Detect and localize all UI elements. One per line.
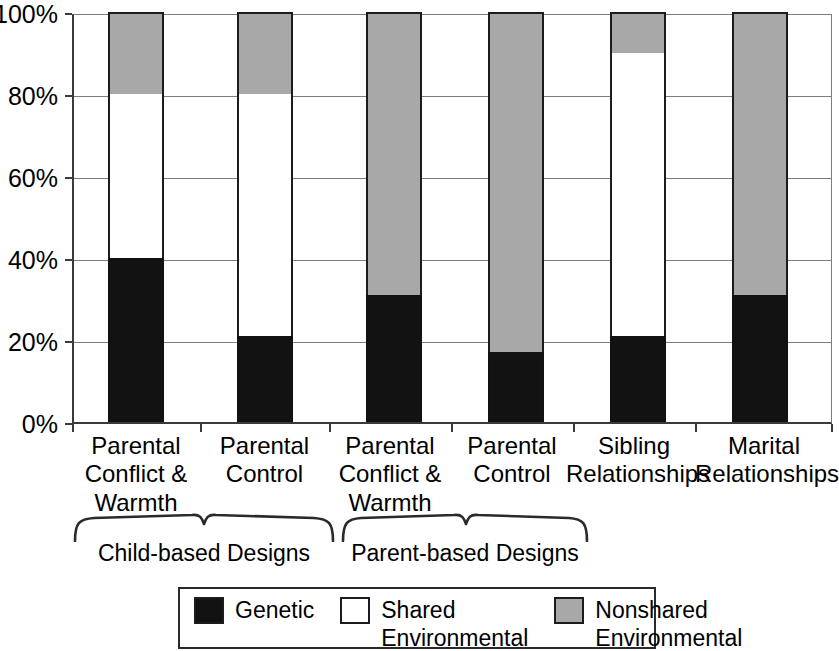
x-axis-tick-mark (329, 424, 331, 432)
legend-label: Shared Environmental (381, 596, 528, 651)
y-axis-tick-label: 100% (0, 0, 58, 29)
x-axis-tick-mark (831, 424, 833, 432)
bar-stack (610, 12, 666, 422)
legend-swatch-nonshared-icon (554, 597, 584, 624)
plot-area (72, 14, 832, 424)
category-label-3: Parental Control (451, 432, 573, 489)
x-axis-tick-mark (573, 424, 575, 432)
bar-segment-genetic (488, 352, 544, 422)
legend-swatch-genetic-icon (194, 597, 224, 624)
bar-segment-genetic (732, 295, 788, 422)
x-axis-tick-mark (695, 424, 697, 432)
group-brace-parent-based (340, 512, 590, 542)
group-brace-child-based (72, 512, 336, 542)
legend-item-shared-environmental: Shared Environmental (340, 596, 528, 647)
bar-segment-nonshared (488, 12, 544, 352)
bar-stack (488, 12, 544, 422)
y-axis-tick-label: 0% (22, 410, 58, 439)
category-label-2: Parental Conflict & Warmth (327, 432, 453, 517)
bar-segment-genetic (108, 258, 164, 422)
category-label-0: Parental Conflict & Warmth (72, 432, 200, 517)
bar-segment-genetic (610, 336, 666, 422)
bar-stack (732, 12, 788, 422)
category-label-4: Sibling Relationships (566, 432, 702, 489)
bar-stack (366, 12, 422, 422)
bar-segment-genetic (366, 295, 422, 422)
legend-item-nonshared-environmental: Nonshared Environmental (554, 596, 742, 647)
bar-segment-nonshared (366, 12, 422, 295)
group-label-parent-based: Parent-based Designs (340, 540, 590, 567)
x-axis-tick-mark (72, 424, 74, 432)
legend-label: Nonshared Environmental (595, 596, 742, 651)
y-axis-tick-label: 60% (8, 164, 58, 193)
bar-segment-nonshared (610, 12, 666, 53)
bar-segment-shared (610, 53, 666, 336)
y-axis-tick-label: 20% (8, 328, 58, 357)
y-axis-tick-mark (65, 423, 72, 425)
bar-segment-shared (108, 94, 164, 258)
group-label-child-based: Child-based Designs (72, 540, 336, 567)
y-axis-tick-label: 40% (8, 246, 58, 275)
y-axis-tick-label: 80% (8, 82, 58, 111)
legend-item-genetic: Genetic (194, 596, 314, 647)
bar-segment-nonshared (108, 12, 164, 94)
bar-stack (237, 12, 293, 422)
y-axis-tick-mark (65, 13, 72, 15)
bar-segment-nonshared (732, 12, 788, 295)
bar-stack (108, 12, 164, 422)
bar-segment-shared (237, 94, 293, 336)
bars-layer (74, 15, 831, 422)
y-axis: 100% 80% 60% 40% 20% 0% (0, 0, 72, 438)
y-axis-tick-mark (65, 177, 72, 179)
x-axis-tick-mark (451, 424, 453, 432)
legend: Genetic Shared Environmental Nonshared E… (178, 587, 656, 649)
legend-swatch-shared-icon (340, 597, 370, 624)
legend-label: Genetic (235, 596, 314, 624)
y-axis-tick-mark (65, 341, 72, 343)
y-axis-tick-mark (65, 259, 72, 261)
bar-segment-genetic (237, 336, 293, 422)
x-axis-tick-mark (200, 424, 202, 432)
category-label-5: Marital Relationships (695, 432, 833, 489)
y-axis-tick-mark (65, 95, 72, 97)
legend-items: Genetic Shared Environmental Nonshared E… (180, 589, 654, 647)
category-label-1: Parental Control (200, 432, 329, 489)
bar-segment-nonshared (237, 12, 293, 94)
